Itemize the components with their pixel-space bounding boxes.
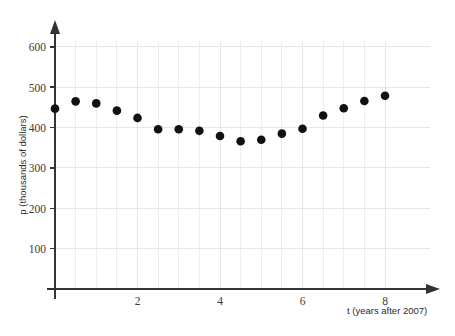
- vertical-gridlines: [76, 42, 385, 289]
- x-axis-title: t (years after 2007): [347, 305, 427, 316]
- data-point: [174, 125, 183, 134]
- x-axis: [47, 284, 440, 299]
- data-point: [319, 111, 328, 120]
- y-axis-arrowhead: [50, 20, 60, 34]
- horizontal-gridlines: [55, 47, 430, 249]
- y-tick-label: 300: [29, 162, 47, 174]
- scatter-plot-figure: 100200300400500600 2468 t (years after 2…: [0, 0, 455, 336]
- data-point: [339, 104, 348, 113]
- x-axis-arrowhead: [426, 284, 440, 294]
- data-point: [298, 125, 307, 134]
- y-tick-label: 200: [29, 203, 47, 215]
- y-tick-labels: 100200300400500600: [29, 41, 47, 255]
- y-tick-label: 500: [29, 82, 47, 94]
- x-tick-label: 6: [300, 295, 306, 307]
- x-tick-label: 4: [217, 295, 223, 307]
- data-point: [360, 97, 369, 106]
- data-point: [154, 125, 163, 134]
- data-point: [51, 104, 60, 113]
- data-point: [257, 135, 266, 144]
- y-tick-label: 100: [29, 243, 47, 255]
- data-point: [236, 137, 245, 146]
- data-point: [133, 114, 142, 123]
- data-point: [381, 91, 390, 100]
- y-tick-label: 600: [29, 41, 47, 53]
- data-point: [216, 132, 225, 141]
- y-axis-title: p (thousands of dollars): [17, 115, 28, 214]
- plot-canvas: 100200300400500600 2468 t (years after 2…: [0, 0, 455, 336]
- x-tick-label: 2: [135, 295, 141, 307]
- data-point: [92, 99, 101, 108]
- data-point: [278, 129, 287, 138]
- data-point: [195, 127, 204, 136]
- y-tick-label: 400: [29, 122, 47, 134]
- data-point: [113, 106, 122, 115]
- data-point: [71, 97, 80, 106]
